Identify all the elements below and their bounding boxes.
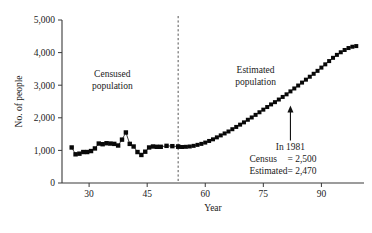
- data-point-marker: [135, 150, 139, 154]
- data-point-marker: [354, 44, 358, 48]
- y-axis: 01,0002,0003,0004,0005,000No. of people: [14, 15, 62, 188]
- data-point-marker: [184, 145, 188, 149]
- data-point-marker: [159, 145, 163, 149]
- data-point-marker: [254, 113, 258, 117]
- data-point-marker: [347, 46, 351, 50]
- censused-region-label-line2: population: [92, 81, 133, 91]
- data-point-marker: [281, 95, 285, 99]
- data-point-marker: [147, 145, 151, 149]
- data-point-marker: [143, 150, 147, 154]
- data-point-marker: [69, 145, 73, 149]
- data-point-marker: [81, 150, 85, 154]
- data-point-marker: [331, 56, 335, 60]
- data-point-marker: [304, 78, 308, 82]
- chart-annotations: CensusedpopulationEstimatedpopulationIn …: [92, 65, 317, 177]
- data-point-marker: [108, 141, 112, 145]
- data-point-marker: [316, 69, 320, 73]
- data-point-marker: [120, 137, 124, 141]
- callout-estimated-value: = 2,470: [287, 166, 316, 176]
- data-point-marker: [219, 133, 223, 137]
- data-point-marker: [77, 151, 81, 155]
- x-axis-title: Year: [204, 203, 222, 213]
- data-point-marker: [339, 50, 343, 54]
- data-point-marker: [139, 153, 143, 157]
- x-tick-label: 45: [142, 189, 152, 199]
- data-point-marker: [73, 152, 77, 156]
- data-point-marker: [85, 150, 89, 154]
- y-tick-label: 5,000: [34, 15, 56, 25]
- x-tick-label: 30: [84, 189, 94, 199]
- data-point-marker: [89, 149, 93, 153]
- data-point-marker: [176, 145, 180, 149]
- data-point-marker: [223, 131, 227, 135]
- data-point-marker: [124, 130, 128, 134]
- x-axis: 3045607590Year: [62, 183, 364, 213]
- callout-census-label: Census: [249, 154, 277, 164]
- data-point-marker: [116, 143, 120, 147]
- data-point-marker: [277, 98, 281, 102]
- callout-year-text: In 1981: [276, 142, 306, 152]
- x-tick-label: 60: [201, 189, 211, 199]
- x-tick-label: 90: [317, 189, 327, 199]
- data-point-marker: [300, 81, 304, 85]
- y-tick-label: 4,000: [34, 48, 56, 58]
- data-point-marker: [343, 48, 347, 52]
- data-point-marker: [112, 142, 116, 146]
- data-point-marker: [350, 45, 354, 49]
- data-point-marker: [207, 139, 211, 143]
- data-point-marker: [230, 127, 234, 131]
- y-tick-label: 3,000: [34, 81, 56, 91]
- data-point-marker: [238, 123, 242, 127]
- y-tick-label: 2,000: [34, 113, 56, 123]
- data-point-marker: [128, 142, 132, 146]
- data-point-marker: [296, 84, 300, 88]
- data-point-marker: [170, 144, 174, 148]
- data-point-marker: [131, 144, 135, 148]
- callout-estimated-label: Estimated: [249, 166, 287, 176]
- data-point-marker: [211, 137, 215, 141]
- data-point-marker: [93, 146, 97, 150]
- data-point-marker: [151, 144, 155, 148]
- data-point-marker: [265, 105, 269, 109]
- data-point-marker: [199, 142, 203, 146]
- data-series-group: [69, 44, 358, 157]
- data-point-marker: [242, 120, 246, 124]
- data-point-marker: [180, 145, 184, 149]
- data-point-marker: [164, 144, 168, 148]
- estimated-region-label-line1: Estimated: [237, 65, 275, 75]
- callout-census-value: = 2,500: [287, 154, 316, 164]
- data-point-marker: [226, 129, 230, 133]
- estimated-region-label-line2: population: [235, 77, 276, 87]
- data-point-marker: [246, 118, 250, 122]
- data-point-marker: [250, 115, 254, 119]
- data-point-marker: [188, 144, 192, 148]
- data-point-marker: [308, 75, 312, 79]
- data-point-marker: [319, 66, 323, 70]
- data-point-marker: [155, 145, 159, 149]
- population-growth-chart: 01,0002,0003,0004,0005,000No. of people …: [0, 0, 372, 233]
- callout-arrow-head: [287, 105, 293, 112]
- data-point-marker: [335, 53, 339, 57]
- data-point-marker: [203, 141, 207, 145]
- data-point-marker: [327, 59, 331, 63]
- chart-container: 01,0002,0003,0004,0005,000No. of people …: [0, 0, 372, 233]
- y-tick-label: 1,000: [34, 146, 56, 156]
- data-point-marker: [288, 89, 292, 93]
- data-point-marker: [269, 102, 273, 106]
- data-point-marker: [257, 110, 261, 114]
- data-point-marker: [292, 86, 296, 90]
- data-point-marker: [215, 135, 219, 139]
- data-point-marker: [97, 141, 101, 145]
- data-point-marker: [261, 108, 265, 112]
- data-point-marker: [234, 125, 238, 129]
- y-axis-title: No. of people: [14, 76, 24, 128]
- data-point-marker: [100, 142, 104, 146]
- data-point-marker: [192, 144, 196, 148]
- data-point-marker: [104, 141, 108, 145]
- censused-region-label-line1: Censused: [94, 69, 131, 79]
- x-tick-label: 75: [259, 189, 269, 199]
- data-point-marker: [312, 72, 316, 76]
- data-point-marker: [323, 62, 327, 66]
- y-tick-label: 0: [50, 178, 55, 188]
- data-point-marker: [285, 92, 289, 96]
